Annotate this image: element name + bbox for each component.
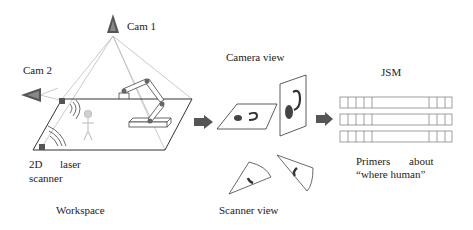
laser-scanner-2 bbox=[39, 144, 45, 150]
camera-view-floor bbox=[217, 104, 277, 129]
camera-view-title: Camera view bbox=[226, 51, 284, 63]
arrow-right-icon bbox=[194, 115, 213, 129]
laser-label-2d: 2D bbox=[29, 158, 42, 170]
diagram-canvas bbox=[0, 0, 473, 230]
workspace-floor bbox=[33, 99, 192, 150]
cam2-icon bbox=[21, 88, 41, 102]
cam1-label: Cam 1 bbox=[127, 20, 156, 32]
scan-waves-icon bbox=[48, 100, 80, 146]
robot-arm-icon bbox=[119, 79, 171, 128]
laser-scanner-1 bbox=[59, 98, 65, 104]
scanner-view-fans bbox=[229, 155, 313, 194]
jsm-row bbox=[340, 114, 452, 125]
camera-view-wall bbox=[280, 75, 306, 136]
laser-label-laser: laser bbox=[60, 158, 81, 170]
jsm-title: JSM bbox=[381, 66, 401, 78]
camera-fov-lines bbox=[40, 36, 192, 150]
workspace-caption: Workspace bbox=[56, 204, 105, 216]
scanner-view-caption: Scanner view bbox=[219, 204, 279, 216]
jsm-caption-primers: Primers bbox=[356, 155, 390, 167]
jsm-row bbox=[340, 97, 452, 108]
arrow-right-icon bbox=[316, 112, 333, 126]
laser-label-scanner: scanner bbox=[29, 172, 63, 184]
jsm-row bbox=[340, 131, 452, 142]
cam2-label: Cam 2 bbox=[23, 64, 52, 76]
jsm-bars bbox=[340, 97, 452, 142]
human-figure-icon bbox=[82, 111, 94, 141]
cam1-icon bbox=[107, 14, 119, 33]
jsm-caption-about: about bbox=[409, 155, 433, 167]
jsm-caption-where-human: “where human” bbox=[356, 168, 425, 180]
